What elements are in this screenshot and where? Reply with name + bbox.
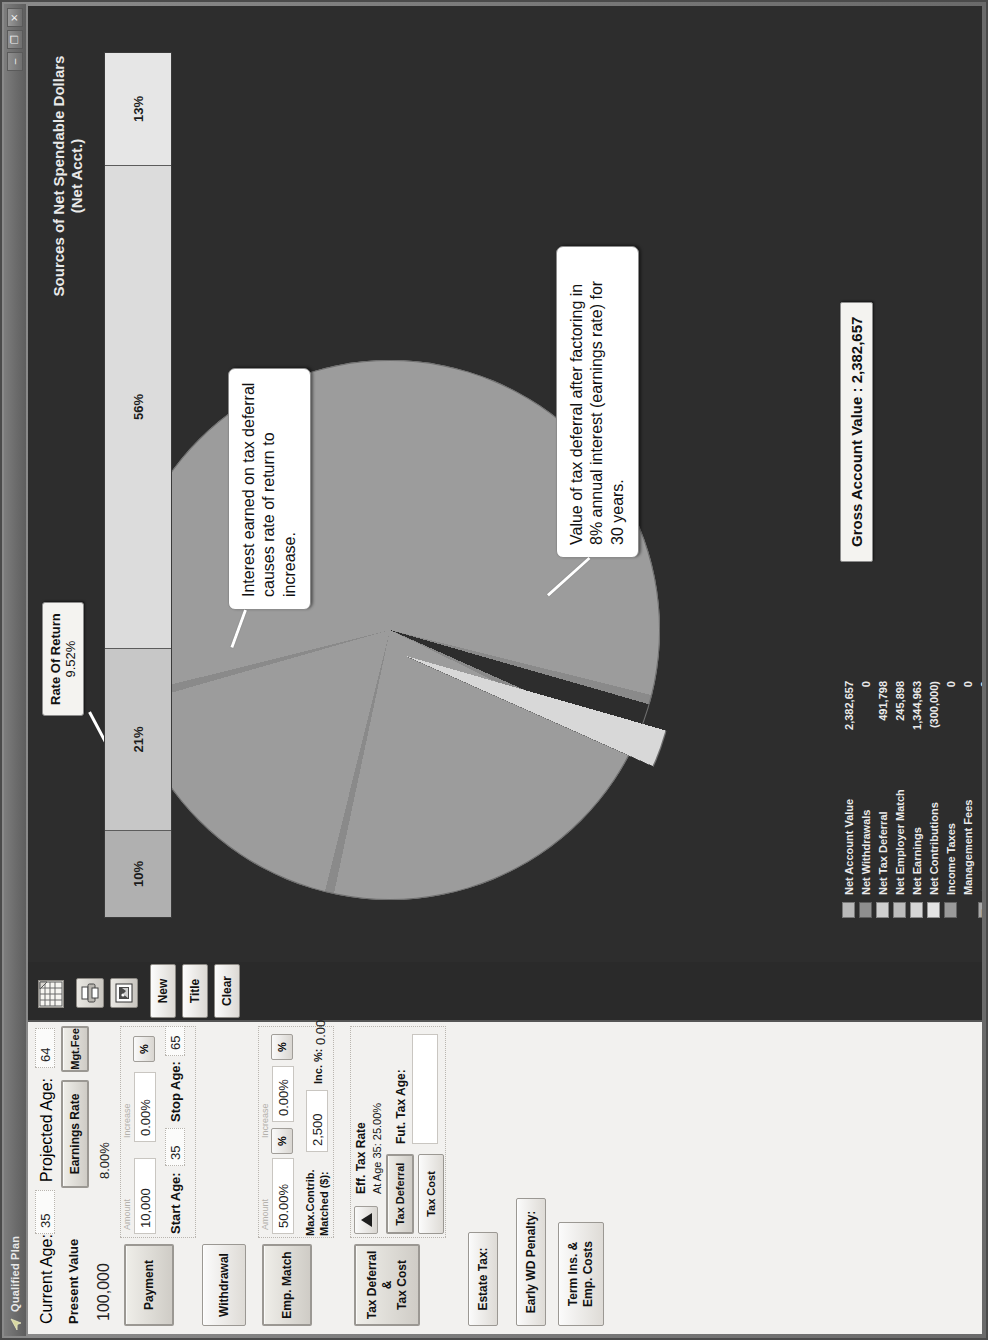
term-ins-line2: Emp. Costs [581, 1241, 596, 1307]
legend-row: Net Withdrawals0 [857, 681, 874, 918]
client-area: Current Age: 35 Projected Age: 64 Presen… [28, 6, 982, 1334]
toolbar: New Title Clear [28, 962, 982, 1020]
projected-age-label: Projected Age: [38, 1078, 56, 1182]
legend-color-swatch [961, 902, 974, 918]
rotated-screenshot-wrapper: Qualified Plan – ❐ ✕ Current Age: 35 Pro… [0, 0, 988, 1340]
legend-series-name: Income Taxes [945, 759, 957, 895]
payment-amount-caption: Amount [122, 1199, 132, 1230]
current-age-field[interactable]: 35 [35, 1190, 55, 1234]
inc-pct-label: Inc. %: [312, 1049, 324, 1084]
input-form-panel: Current Age: 35 Projected Age: 64 Presen… [28, 1020, 982, 1334]
chart-canvas: Rate Of Return 9.52% Interest earned on … [28, 6, 982, 962]
rate-of-return-box: Rate Of Return 9.52% [42, 602, 84, 716]
earnings-rate-value: 8.00% [97, 1142, 112, 1179]
emp-match-increase-field[interactable]: 0.00% [272, 1066, 294, 1122]
matched-value: 2,500 [310, 1113, 325, 1146]
early-wd-penalty-button[interactable]: Early WD Penalty: [516, 1198, 546, 1326]
bar-chart-title: Sources of Net Spendable Dollars (Net Ac… [50, 52, 87, 300]
legend-row: Net Tax Deferral491,798 [874, 681, 891, 918]
tax-btn-line1: Tax Deferral & [365, 1246, 395, 1324]
emp-match-percent-toggle[interactable]: % [271, 1128, 293, 1154]
legend-color-swatch [859, 902, 872, 918]
new-button[interactable]: New [150, 964, 176, 1018]
emp-match-amount-caption: Amount [260, 1199, 270, 1230]
legend-series-value: 0 [979, 681, 983, 759]
earnings-rate-field[interactable]: 8.00% [94, 1104, 114, 1184]
spreadsheet-icon[interactable] [38, 980, 64, 1008]
legend-series-value: 245,898 [894, 681, 906, 759]
up-arrow-icon[interactable] [354, 1206, 378, 1234]
start-age-label: Start Age: [168, 1172, 183, 1234]
title-button[interactable]: Title [182, 964, 208, 1018]
emp-match-increase-caption: Increase [260, 1103, 270, 1138]
payment-increase-field[interactable]: 0.00% [134, 1072, 156, 1142]
payment-button[interactable]: Payment [124, 1244, 174, 1326]
earnings-rate-button[interactable]: Earnings Rate [61, 1080, 89, 1188]
mgt-fee-button[interactable]: Mgt.Fee [61, 1026, 89, 1072]
legend-color-swatch [910, 902, 923, 918]
picture-icon[interactable] [110, 978, 138, 1008]
legend-series-value: (300,000) [928, 681, 940, 759]
clear-button[interactable]: Clear [214, 964, 240, 1018]
eff-tax-rate-value: At Age 35: 25.00% [371, 1103, 383, 1194]
callout-value-of-tax-deferral: Value of tax deferral after factoring in… [556, 246, 639, 558]
tax-btn-line2: Tax Cost [395, 1260, 410, 1310]
fut-tax-age-label: Fut. Tax Age: [394, 1069, 408, 1144]
payment-amount-value: 10,000 [138, 1188, 153, 1228]
legend-row: Net Contributions(300,000) [925, 681, 942, 918]
legend-table: Net Account Value2,382,657Net Withdrawal… [840, 681, 982, 918]
current-age-value: 35 [38, 1214, 53, 1228]
bar-segment-label: 21% [131, 726, 146, 752]
application-window: Qualified Plan – ❐ ✕ Current Age: 35 Pro… [0, 0, 988, 1340]
bar-segment: 10% [105, 830, 171, 917]
legend-series-value: 491,798 [877, 681, 889, 759]
legend-series-name: Management Fees [962, 759, 974, 895]
legend-series-value: 0 [860, 681, 872, 759]
payment-increase-caption: Increase [122, 1103, 132, 1138]
term-ins-line1: Term Ins. & [566, 1242, 581, 1306]
title-bar[interactable]: Qualified Plan – ❐ ✕ [4, 4, 26, 1336]
emp-match-button[interactable]: Emp. Match [262, 1244, 312, 1326]
withdrawal-button[interactable]: Withdrawal [202, 1244, 246, 1326]
payment-amount-field[interactable]: 10,000 [134, 1158, 156, 1234]
estate-tax-button[interactable]: Estate Tax: [468, 1232, 498, 1326]
start-age-field[interactable]: 35 [165, 1128, 185, 1166]
matched-value-field[interactable]: 2,500 [306, 1090, 328, 1152]
emp-match-increase-percent-toggle[interactable]: % [271, 1034, 293, 1060]
maximize-button[interactable]: ❐ [7, 30, 23, 49]
legend-row: Management Fees0 [959, 681, 976, 918]
window-frame: Qualified Plan – ❐ ✕ Current Age: 35 Pro… [0, 0, 988, 1340]
start-age-value: 35 [168, 1146, 183, 1160]
stop-age-value: 65 [168, 1036, 183, 1050]
legend-series-name: Net Tax Deferral [877, 759, 889, 895]
brand-label: Truth Concepts [978, 816, 982, 918]
print-icon[interactable] [76, 978, 104, 1008]
payment-percent-toggle[interactable]: % [133, 1036, 155, 1062]
current-age-label: Current Age: [38, 1234, 56, 1324]
emp-match-amount-field[interactable]: 50.00% [272, 1158, 294, 1234]
legend-row: Net Account Value2,382,657 [840, 681, 857, 918]
stop-age-label: Stop Age: [168, 1061, 183, 1122]
emp-match-increase-value: 0.00% [276, 1079, 291, 1116]
minimize-button[interactable]: – [7, 52, 23, 71]
callout-interest-earned: Interest earned on tax deferral causes r… [228, 368, 311, 610]
present-value-label-text: Present Value [66, 1239, 81, 1324]
window-title: Qualified Plan [9, 1236, 21, 1312]
term-ins-emp-costs-button[interactable]: Term Ins. & Emp. Costs [558, 1222, 604, 1326]
tax-cost-button[interactable]: Tax Cost [418, 1154, 444, 1234]
tax-deferral-tax-cost-button[interactable]: Tax Deferral & Tax Cost [354, 1244, 420, 1326]
close-button[interactable]: ✕ [7, 8, 23, 27]
present-value-field[interactable]: 100,000 [92, 1206, 116, 1326]
stop-age-field[interactable]: 65 [165, 1026, 185, 1056]
legend-color-swatch [927, 902, 940, 918]
fut-tax-age-field[interactable] [412, 1034, 438, 1144]
rate-of-return-label: Rate Of Return [48, 613, 63, 705]
legend-series-value: 0 [962, 681, 974, 759]
tax-deferral-button[interactable]: Tax Deferral [386, 1154, 414, 1234]
legend-row: Net Employer Match245,898 [891, 681, 908, 918]
projected-age-field[interactable]: 64 [35, 1028, 55, 1068]
legend-series-name: Net Earnings [911, 759, 923, 895]
matched-label: Matched ($): [318, 1171, 330, 1236]
legend-row: Net Earnings1,344,963 [908, 681, 925, 918]
app-icon [8, 1317, 23, 1332]
